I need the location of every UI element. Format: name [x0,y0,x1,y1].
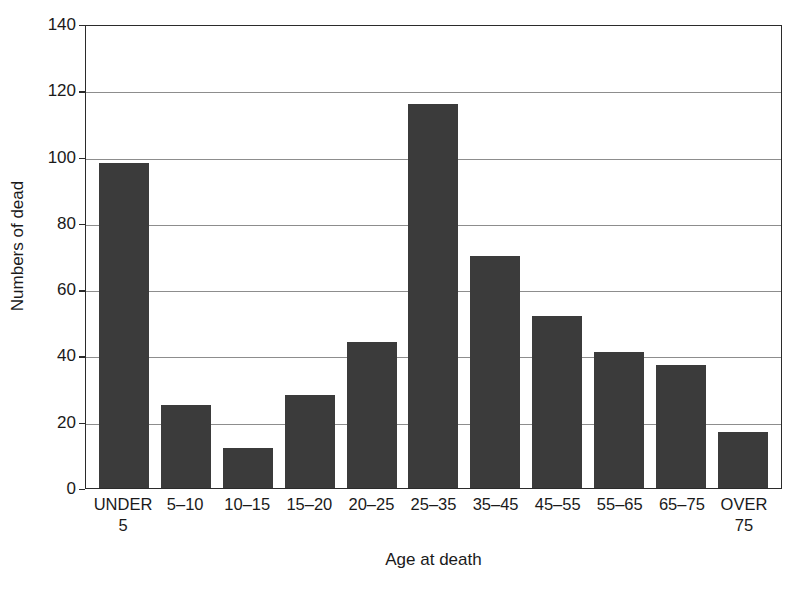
y-axis-tick-label: 140 [48,15,76,35]
y-axis-tickmark [79,158,85,159]
bar [470,256,520,488]
bar-slot [93,26,155,488]
x-axis-tick-label: 45–55 [527,494,589,554]
y-axis-tickmark [79,356,85,357]
bar [594,352,644,488]
bar-chart-figure: Numbers of dead 020406080100120140 UNDER… [0,0,791,592]
x-axis-tick-labels: UNDER 55–1010–1515–2020–2525–3535–4545–5… [85,494,782,554]
x-axis-title: Age at death [85,550,782,570]
y-axis-tick-label: 120 [48,81,76,101]
x-axis-tick-label: OVER 75 [713,494,775,554]
y-axis-title-text: Numbers of dead [8,181,28,311]
y-axis-tick-label: 80 [57,214,76,234]
bar-slot [155,26,217,488]
x-axis-tick-label: 10–15 [216,494,278,554]
y-axis-tick-label: 20 [57,413,76,433]
bar-slot [217,26,279,488]
bar [532,316,582,488]
bar-slot [279,26,341,488]
y-axis-title: Numbers of dead [0,0,36,492]
y-axis-tickmark [79,91,85,92]
bar-slot [650,26,712,488]
plot-area [85,25,782,489]
bar [718,432,768,488]
x-axis-tick-label: 25–35 [402,494,464,554]
y-axis-tickmark [79,423,85,424]
bar-slot [588,26,650,488]
bar [408,104,458,488]
bar-series [86,26,781,488]
bar-slot [464,26,526,488]
y-axis-tickmark [79,290,85,291]
x-axis-tick-label: 55–65 [589,494,651,554]
y-axis-tick-label: 0 [67,479,76,499]
bar [161,405,211,488]
bar [656,365,706,488]
bar [99,163,149,488]
y-axis-tick-label: 100 [48,148,76,168]
bar [223,448,273,488]
x-axis-tick-label: UNDER 5 [92,494,154,554]
y-axis-tick-label: 40 [57,346,76,366]
y-axis-tickmark [79,224,85,225]
y-axis-tickmark [79,25,85,26]
bar [347,342,397,488]
bar-slot [341,26,403,488]
y-axis-tick-label: 60 [57,280,76,300]
x-axis-tick-label: 20–25 [340,494,402,554]
x-axis-tick-label: 65–75 [651,494,713,554]
x-axis-tick-label: 35–45 [465,494,527,554]
x-axis-tick-label: 15–20 [278,494,340,554]
x-axis-tick-label: 5–10 [154,494,216,554]
bar-slot [712,26,774,488]
bar-slot [526,26,588,488]
y-axis-tickmark [79,489,85,490]
bar-slot [403,26,465,488]
bar [285,395,335,488]
y-axis-tick-labels: 020406080100120140 [36,0,80,492]
